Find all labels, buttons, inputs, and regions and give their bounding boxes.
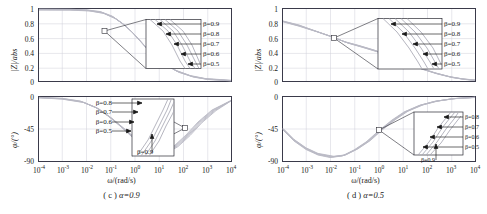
xtick: 10-3 (301, 164, 313, 175)
panel-c-beta-label-mag-3: β=0.7 (203, 40, 219, 48)
bode-figure: |Z|/abs φ/(°) 1 0.8 0.6 0.4 0.2 0 0 -45 … (0, 0, 487, 214)
panel-d-beta-label-mag-5: β=0.5 (444, 60, 460, 68)
panel-d-beta-label-ph-1: β=0.8 (465, 114, 479, 120)
panel-d-xlabel: ω/(rad/s) (244, 176, 487, 185)
xtick: 10-1 (349, 164, 361, 175)
panel-d-beta-label-ph-3: β=0.6 (465, 134, 479, 140)
panel-d-caption: ( d ) α=0.5 (244, 190, 487, 200)
panel-d-beta-label-ph-2: β=0.7 (465, 124, 479, 130)
xtick: 101 (154, 164, 164, 175)
panel-c-caption-index: ( c ) (103, 190, 117, 200)
xtick: 102 (178, 164, 188, 175)
panel-c-beta-label-ph-bottom: β=0.9 (137, 148, 153, 156)
panel-c-beta-label-mag-1: β=0.9 (203, 20, 219, 28)
panel-c-beta-label-ph-1: β=0.8 (96, 99, 112, 107)
panel-c-beta-label-ph-3: β=0.6 (96, 118, 112, 126)
panel-c-beta-label-mag-4: β=0.6 (203, 50, 219, 58)
panel-c-xlabel: ω/(rad/s) (0, 176, 243, 185)
panel-c-beta-label-ph-4: β=0.5 (96, 127, 112, 135)
xtick: 10-4 (33, 164, 45, 175)
panel-d-beta-label-mag-2: β=0.8 (444, 30, 460, 38)
panel-d-beta-label-mag-4: β=0.6 (444, 50, 460, 58)
panel-c-beta-label-mag-2: β=0.8 (203, 30, 219, 38)
xtick: 100 (374, 164, 384, 175)
panel-d-caption-index: ( d ) (347, 190, 361, 200)
xtick: 103 (446, 164, 456, 175)
panel-c-magnitude-callout (102, 20, 201, 69)
panel-d: |Z|/abs φ/(°) 1 0.8 0.6 0.4 0.2 0 0 -45 … (244, 0, 487, 214)
panel-c-beta-label-ph-2: β=0.7 (96, 108, 112, 116)
xtick: 104 (470, 164, 480, 175)
xtick: 10-4 (277, 164, 289, 175)
xtick: 10-1 (105, 164, 117, 175)
xtick: 100 (130, 164, 140, 175)
xtick: 101 (398, 164, 408, 175)
panel-c-caption-param: α=0.9 (119, 190, 140, 200)
panel-c-caption: ( c ) α=0.9 (0, 190, 243, 200)
panel-d-phase-callout (377, 112, 464, 160)
panel-c: |Z|/abs φ/(°) 1 0.8 0.6 0.4 0.2 0 0 -45 … (0, 0, 243, 214)
panel-d-beta-label-mag-3: β=0.7 (444, 40, 460, 48)
panel-c-beta-label-mag-5: β=0.5 (203, 60, 219, 68)
xtick: 10-2 (81, 164, 93, 175)
panel-d-caption-param: α=0.5 (363, 190, 384, 200)
panel-d-beta-label-mag-1: β=0.9 (444, 20, 460, 28)
xtick: 10-2 (325, 164, 337, 175)
xtick: 104 (226, 164, 236, 175)
xtick: 103 (202, 164, 212, 175)
panel-d-beta-label-ph-4: β=0.5 (465, 144, 479, 150)
panel-d-beta-label-ph-bottom: β=0.9 (421, 157, 435, 163)
xtick: 102 (422, 164, 432, 175)
panel-d-magnitude-callout (332, 19, 443, 70)
xtick: 10-3 (57, 164, 69, 175)
